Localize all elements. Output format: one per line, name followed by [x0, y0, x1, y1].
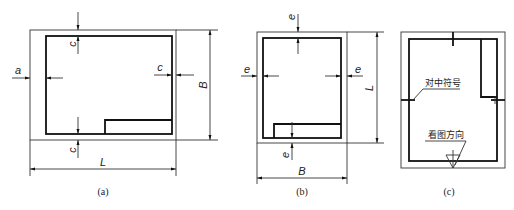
label-top-c: c: [66, 41, 78, 47]
sheet-border: [257, 32, 347, 143]
label-left-e: e: [244, 63, 250, 75]
sheet-border: [30, 30, 176, 140]
label-left-a: a: [15, 64, 21, 76]
label-top-e: e: [285, 14, 297, 20]
figure-c: 对中符号 看图方向 (c): [401, 32, 505, 198]
caption-c: (c): [443, 186, 454, 198]
label-L: L: [363, 85, 375, 91]
title-block: [481, 39, 497, 97]
label-right-c: c: [157, 61, 163, 73]
figure-a: B L c a c c (a): [12, 12, 218, 198]
drawing-frame-diagram: B L c a c c (a) L B: [0, 0, 514, 210]
title-block: [274, 124, 341, 138]
drawing-frame: [263, 38, 341, 138]
annotation-centering-mark: 对中符号: [425, 77, 461, 88]
label-B: B: [197, 81, 209, 88]
label-B: B: [298, 165, 305, 177]
caption-a: (a): [97, 186, 108, 198]
label-bottom-c: c: [66, 147, 78, 153]
label-right-e: e: [355, 63, 361, 75]
drawing-frame: [409, 39, 497, 161]
leader-centering-mark: [413, 89, 460, 100]
label-L: L: [100, 156, 106, 168]
caption-b: (b): [296, 186, 308, 198]
label-bottom-e: e: [279, 152, 291, 158]
annotation-viewing-direction: 看图方向: [428, 129, 464, 140]
sheet-border: [401, 32, 505, 168]
figure-b: L B e e e e (b): [241, 14, 384, 198]
title-block: [105, 120, 172, 134]
